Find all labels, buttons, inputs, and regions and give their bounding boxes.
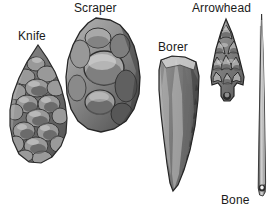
label-arrowhead: Arrowhead bbox=[192, 2, 251, 15]
label-scraper: Scraper bbox=[74, 2, 117, 15]
borer-artifact-icon bbox=[152, 54, 208, 194]
label-borer: Borer bbox=[158, 41, 188, 54]
label-knife: Knife bbox=[18, 30, 46, 43]
stone-age-tools-figure: Knife Scraper Borer Arrowhead Bone needl… bbox=[0, 0, 275, 211]
scraper-artifact-icon bbox=[62, 16, 146, 138]
label-bone-needle: Bone needle bbox=[221, 168, 258, 211]
label-bone-needle-line1: Bone bbox=[221, 194, 258, 207]
arrowhead-artifact-icon bbox=[203, 17, 251, 105]
